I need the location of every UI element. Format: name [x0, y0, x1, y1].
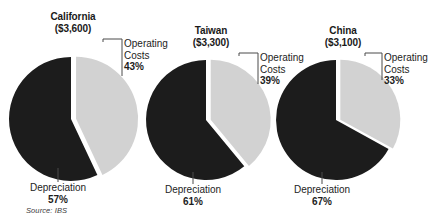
- callout-percent: 33%: [384, 75, 432, 87]
- callout-label-line1: Depreciation: [143, 184, 243, 196]
- callout-label-line2: Costs: [384, 64, 432, 76]
- source-note: Source: IBS: [26, 206, 67, 215]
- pie-title-name: China: [288, 25, 398, 37]
- callout-percent: 57%: [8, 194, 108, 206]
- pie-title-california: California ($3,600): [18, 11, 128, 34]
- callout-depreciation-china: Depreciation 67%: [272, 184, 372, 207]
- pie-chart-china: China ($3,100) Operating Costs 33% Depre…: [272, 0, 411, 222]
- pie-title-value: ($3,600): [18, 23, 128, 35]
- pie-title-value: ($3,100): [288, 37, 398, 49]
- callout-depreciation-california: Depreciation 57%: [8, 182, 108, 205]
- pie-chart-california: California ($3,600) Operating Costs 43% …: [0, 0, 140, 222]
- callout-label-line1: Depreciation: [272, 184, 372, 196]
- pie-title-taiwan: Taiwan ($3,300): [156, 25, 266, 48]
- callout-percent: 67%: [272, 196, 372, 208]
- pie-title-china: China ($3,100): [288, 25, 398, 48]
- pie-title-name: Taiwan: [156, 25, 266, 37]
- pie-title-name: California: [18, 11, 128, 23]
- callout-label-line1: Depreciation: [8, 182, 108, 194]
- callout-depreciation-taiwan: Depreciation 61%: [143, 184, 243, 207]
- pie-title-value: ($3,300): [156, 37, 266, 49]
- pie-chart-taiwan: Taiwan ($3,300) Operating Costs 39% Depr…: [138, 0, 278, 222]
- callout-operating-costs-china: Operating Costs 33%: [324, 52, 432, 87]
- callout-label-line1: Operating: [384, 52, 432, 64]
- callout-percent: 61%: [143, 196, 243, 208]
